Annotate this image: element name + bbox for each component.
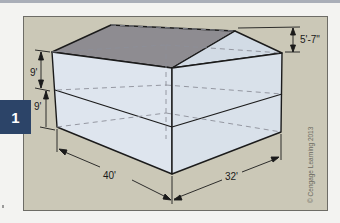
roof-rise-label: 5'-7" — [300, 34, 320, 45]
two-story-building-diagram: 9' 9' 5'-7" 40' 32' © Cengage Learning 2… — [0, 0, 340, 223]
upper-story-height-label: 9' — [30, 67, 38, 78]
width-label: 32' — [225, 171, 238, 182]
edge-mark — [2, 205, 4, 208]
length-label: 40' — [103, 170, 116, 181]
lower-story-height-label: 9' — [34, 101, 42, 112]
end-wall — [172, 53, 282, 174]
figure-number-badge: 1 — [0, 100, 31, 134]
copyright-notice: © Cengage Learning 2013 — [307, 126, 315, 203]
long-side-wall — [52, 52, 172, 174]
